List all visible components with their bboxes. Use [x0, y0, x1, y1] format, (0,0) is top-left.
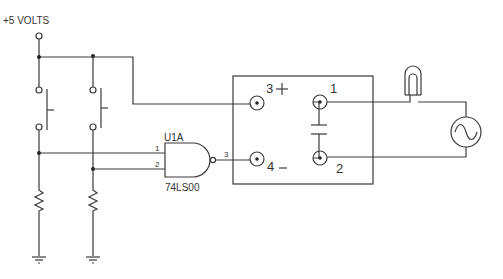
wire [418, 102, 466, 117]
terminal-4 [250, 152, 264, 166]
supply-label: +5 VOLTS [3, 16, 49, 26]
pushbutton-switch-2 [90, 87, 108, 130]
pushbutton-switch-1 [36, 87, 54, 130]
terminal-3 [250, 96, 264, 110]
wire [327, 147, 466, 157]
terminal-2-label: 2 [336, 162, 343, 175]
gate-pin-2-label: 2 [155, 161, 159, 169]
terminal-4-label: 4 [267, 160, 274, 173]
ground-icon [32, 257, 46, 263]
capacitor [311, 102, 327, 158]
circuit-schematic [0, 0, 503, 279]
nand-gate [165, 143, 250, 177]
supply-terminal [36, 33, 42, 39]
gate-pin-1-label: 1 [155, 145, 159, 153]
terminal-1-label: 1 [330, 82, 337, 95]
resistor-1 [35, 186, 43, 256]
ground-icon [86, 257, 100, 263]
lamp [405, 66, 421, 95]
gate-pin-3-label: 3 [224, 151, 228, 159]
terminal-3-label: 3 [266, 82, 273, 95]
gate-part-label: 74LS00 [165, 183, 199, 193]
gate-ref-label: U1A [164, 133, 183, 143]
ac-source [451, 117, 481, 147]
resistor-2 [89, 186, 97, 256]
relay-box [233, 76, 373, 184]
junction-dot [37, 55, 41, 59]
supply-rail-wire [39, 57, 250, 104]
wire [327, 95, 410, 102]
